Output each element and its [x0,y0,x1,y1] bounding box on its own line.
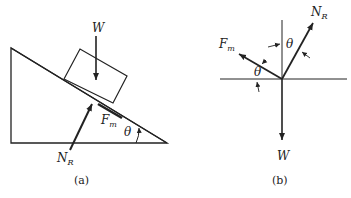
force-diagram: W NR Fm θ (a) W NR Fm θ θ (b) [0,0,351,198]
panel-b-free-body: W NR Fm θ θ (b) [218,5,347,187]
angle-vertical-label: θ [286,37,294,51]
friction-force-vector-label: Fm [218,37,235,53]
friction-force-label: Fm [100,113,117,129]
angle-label: θ [124,125,132,139]
panel-a-incline: W NR Fm θ (a) [11,21,167,187]
weight-label: W [92,21,106,35]
angle-marker-friction [262,60,266,64]
panel-a-caption: (a) [74,174,89,187]
angle-arc [136,128,139,143]
angle-marker-horizontal [257,82,259,92]
angle-marker-normal [302,52,310,58]
normal-force-label: NR [56,151,74,167]
angle-horizontal-label: θ [254,65,262,79]
normal-force-vector-label: NR [310,5,328,21]
panel-b-caption: (b) [272,174,288,187]
normal-force-vector [282,23,313,79]
angle-marker-vertical-left [268,44,280,47]
weight-vector-label: W [277,149,291,163]
